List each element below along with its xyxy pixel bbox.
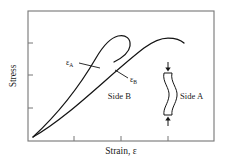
label-side-b: Side B bbox=[108, 91, 131, 101]
y-axis-title: Stress bbox=[8, 64, 18, 87]
label-side-a: Side A bbox=[180, 91, 204, 101]
chart-svg: εA εB Side B Side A Stress Strain, ε bbox=[0, 0, 225, 161]
x-axis-title: Strain, ε bbox=[105, 146, 136, 156]
stress-strain-figure: εA εB Side B Side A Stress Strain, ε bbox=[0, 0, 225, 161]
